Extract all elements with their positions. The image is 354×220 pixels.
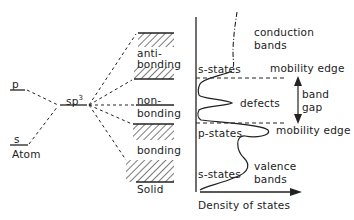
antibonding-label-2: bonding xyxy=(137,58,181,70)
nonbonding-label-1: non- xyxy=(137,94,161,106)
hybrid-to-solid-connectors xyxy=(89,34,136,160)
defects-label: defects xyxy=(240,97,280,109)
atom-s-label: s xyxy=(14,133,20,145)
atom-p-label: p xyxy=(12,78,19,90)
band-gap-label-2: gap xyxy=(302,101,322,113)
atom-to-hybrid-connectors xyxy=(27,90,58,144)
s-states-bottom-label: s-states xyxy=(198,168,241,180)
nonbonding-label-2: bonding xyxy=(137,107,181,119)
arrow-down-icon xyxy=(294,114,302,124)
conduction-label-2: bands xyxy=(254,39,287,51)
valence-label-2: bands xyxy=(254,173,287,185)
bonding-label: bonding xyxy=(137,144,181,156)
dos-xlabel: Density of states xyxy=(198,199,290,211)
hybrid-label: sp3 xyxy=(66,92,83,107)
band-gap-label-1: band xyxy=(302,88,329,100)
atom-title: Atom xyxy=(12,148,41,160)
valence-label-1: valence xyxy=(254,160,296,172)
mobility-edge-top-label: mobility edge xyxy=(270,62,345,74)
solid-title: Solid xyxy=(137,183,164,195)
dos-axis-arrow-icon xyxy=(290,188,302,196)
s-states-top-label: s-states xyxy=(198,63,241,75)
conduction-label-1: conduction xyxy=(254,26,314,38)
p-states-label: p-states xyxy=(198,127,242,139)
arrow-up-icon xyxy=(294,76,302,86)
conduction-band-curve xyxy=(232,12,237,68)
mobility-edge-bottom-label: mobility edge xyxy=(276,124,351,136)
